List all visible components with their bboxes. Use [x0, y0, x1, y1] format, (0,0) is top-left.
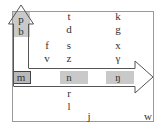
arrows-layer	[0, 0, 162, 136]
symbol-f: f	[45, 40, 49, 51]
symbol-g: g	[115, 24, 121, 35]
symbol-r: r	[67, 88, 71, 99]
symbol-k: k	[115, 11, 121, 22]
horizontal-arrow-right-icon	[14, 61, 154, 93]
symbol-z: z	[67, 53, 72, 64]
symbol-b: b	[18, 26, 24, 37]
symbol-n: n	[66, 72, 72, 83]
symbol-s: s	[67, 40, 71, 51]
symbol-v: v	[44, 53, 50, 64]
symbol-p: p	[18, 14, 24, 25]
symbol-eng: ŋ	[115, 72, 120, 83]
symbol-gamma: γ	[116, 53, 121, 64]
symbol-x: x	[115, 40, 121, 51]
symbol-w: w	[144, 111, 152, 122]
symbol-t: t	[67, 11, 70, 22]
symbol-d: d	[66, 24, 72, 35]
symbol-l: l	[67, 101, 70, 112]
symbol-j: j	[87, 111, 90, 122]
symbol-m: m	[17, 72, 26, 83]
